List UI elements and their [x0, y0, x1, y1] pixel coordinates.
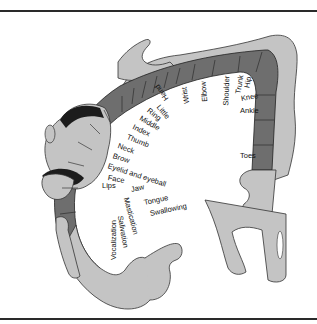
ear-shape	[45, 125, 55, 143]
label-shoulder: Shoulder	[222, 76, 231, 106]
label-lips: Lips	[102, 182, 116, 190]
homunculus-illustration	[0, 0, 317, 324]
pharynx-hook	[145, 243, 182, 300]
stand-slot	[277, 231, 283, 259]
label-toes: Toes	[240, 152, 256, 160]
label-ankle: Ankle	[240, 107, 259, 115]
stand-shape	[205, 200, 286, 282]
label-elbow: Elbow	[199, 81, 208, 102]
label-vocalization: Vocalization	[110, 220, 118, 260]
